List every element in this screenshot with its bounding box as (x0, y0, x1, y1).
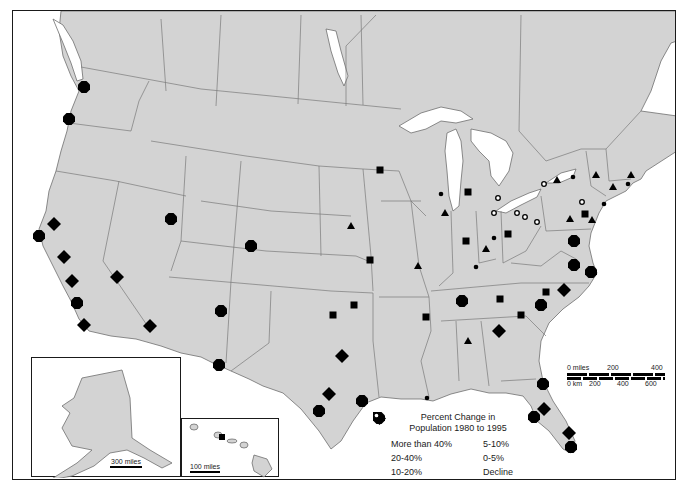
scale-km-200: 200 (589, 380, 601, 387)
city-marker-square (497, 296, 504, 303)
city-marker-square (465, 189, 472, 196)
alaska-inset: 300 miles (31, 357, 181, 477)
city-marker-open-circle (580, 200, 585, 205)
legend-title-line2: Population 1980 to 1995 (373, 423, 543, 434)
city-marker-open-circle (535, 220, 540, 225)
scale-km-label: 0 km (567, 380, 582, 387)
scale-miles-400: 400 (651, 364, 663, 371)
hawaii-scale: 100 miles (190, 463, 220, 473)
legend-title: Percent Change in Population 1980 to 199… (373, 412, 543, 434)
scale-bar: 0 miles 200 400 0 km 200 400 600 (567, 364, 665, 389)
scale-miles-label: 0 miles (567, 364, 589, 371)
city-marker-octagon (565, 441, 577, 453)
city-marker-octagon (537, 378, 549, 390)
city-marker-octagon (215, 305, 227, 317)
city-marker-octagon (456, 295, 468, 307)
legend-item-more-than-40: More than 40% (373, 438, 465, 450)
city-marker-octagon (213, 359, 225, 371)
alaska-shape (32, 358, 182, 478)
city-marker-small-dot (474, 265, 479, 270)
legend-item-10-20: 10-20% (373, 466, 465, 478)
city-marker-open-circle (542, 182, 547, 187)
city-marker-octagon (63, 113, 75, 125)
scale-km-400: 400 (617, 380, 629, 387)
city-marker-square (219, 434, 225, 440)
city-marker-small-dot (439, 192, 444, 197)
city-marker-square (518, 312, 525, 319)
city-marker-small-dot (425, 396, 430, 401)
city-marker-octagon (78, 81, 90, 93)
legend-item-20-40: 20-40% (373, 452, 465, 464)
city-marker-square (351, 302, 358, 309)
city-marker-square (367, 257, 374, 264)
city-marker-open-circle (496, 196, 501, 201)
scale-km-600: 600 (645, 380, 657, 387)
legend-item-5-10: 5-10% (465, 438, 543, 450)
city-marker-square (377, 167, 384, 174)
city-marker-small-dot (492, 236, 497, 241)
alaska-scale-label: 300 miles (111, 458, 141, 465)
legend: Percent Change in Population 1980 to 199… (373, 412, 543, 478)
legend-item-decline: Decline (465, 466, 543, 478)
city-marker-octagon (568, 235, 580, 247)
city-marker-open-circle (523, 215, 528, 220)
city-marker-square (423, 314, 430, 321)
alaska-scale: 300 miles (110, 458, 142, 468)
city-marker-square (543, 289, 550, 296)
city-marker-small-dot (602, 202, 607, 207)
city-marker-octagon (33, 230, 45, 242)
legend-item-0-5: 0-5% (465, 452, 543, 464)
city-marker-octagon (313, 405, 325, 417)
scale-miles-200: 200 (607, 364, 619, 371)
city-marker-octagon (356, 395, 368, 407)
city-marker-octagon (585, 266, 597, 278)
city-marker-octagon (568, 259, 580, 271)
hawaii-inset: 100 miles (181, 418, 279, 477)
city-marker-small-dot (571, 175, 576, 180)
map-frame: 0 miles 200 400 0 km 200 400 600 300 mil… (12, 10, 676, 480)
city-marker-square (582, 211, 589, 218)
city-marker-octagon (71, 297, 83, 309)
city-marker-open-circle (515, 211, 520, 216)
hawaii-scale-label: 100 miles (190, 463, 220, 470)
city-marker-square (505, 231, 512, 238)
legend-title-line1: Percent Change in (373, 412, 543, 423)
city-marker-small-dot (626, 182, 631, 187)
scale-miles-bar (567, 373, 665, 376)
city-marker-octagon (245, 240, 257, 252)
city-marker-open-circle (492, 211, 497, 216)
city-marker-square (463, 238, 470, 245)
city-marker-square (330, 312, 337, 319)
city-marker-octagon (535, 299, 547, 311)
city-marker-octagon (165, 213, 177, 225)
